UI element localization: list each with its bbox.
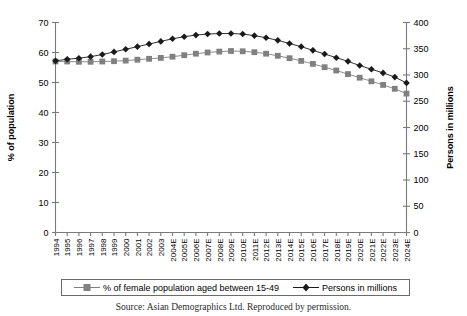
svg-text:1995: 1995 (63, 238, 72, 256)
svg-text:2024E: 2024E (403, 239, 412, 262)
axes-layer: 0102030405060700501001502002503003504001… (6, 18, 455, 262)
chart-legend: % of female population aged between 15-4… (61, 279, 410, 296)
chart-figure: 0102030405060700501001502002503003504001… (0, 0, 467, 316)
svg-text:1998: 1998 (99, 238, 108, 256)
series-persons-millions (52, 30, 410, 86)
svg-text:100: 100 (414, 175, 429, 185)
svg-text:2017E: 2017E (321, 239, 330, 262)
svg-text:50: 50 (38, 78, 48, 88)
svg-text:350: 350 (414, 44, 429, 54)
svg-text:2010E: 2010E (239, 239, 248, 262)
svg-text:1999: 1999 (110, 238, 119, 256)
svg-text:2020E: 2020E (356, 239, 365, 262)
svg-text:10: 10 (38, 198, 48, 208)
svg-text:2011E: 2011E (251, 239, 260, 262)
svg-text:30: 30 (38, 138, 48, 148)
square-marker-icon (74, 282, 100, 293)
svg-text:Persons in millions: Persons in millions (445, 86, 455, 169)
svg-text:2016E: 2016E (309, 239, 318, 262)
series-layer (52, 30, 410, 96)
svg-text:2018E: 2018E (333, 239, 342, 262)
diamond-marker-icon (293, 282, 319, 293)
svg-text:2012E: 2012E (262, 239, 271, 262)
svg-text:40: 40 (38, 108, 48, 118)
svg-text:2003: 2003 (157, 238, 166, 256)
svg-text:400: 400 (414, 18, 429, 28)
svg-text:250: 250 (414, 96, 429, 106)
svg-text:2004E: 2004E (169, 239, 178, 262)
svg-text:50: 50 (414, 201, 424, 211)
svg-text:1997: 1997 (87, 238, 96, 256)
svg-text:2001: 2001 (134, 238, 143, 256)
svg-text:2021E: 2021E (368, 239, 377, 262)
svg-text:2014E: 2014E (286, 239, 295, 262)
legend-entry-percent-female[interactable]: % of female population aged between 15-4… (74, 282, 279, 293)
svg-text:150: 150 (414, 149, 429, 159)
svg-text:2002: 2002 (145, 238, 154, 256)
svg-text:2019E: 2019E (344, 239, 353, 262)
series-percent-female (53, 48, 410, 96)
svg-text:2008E: 2008E (216, 239, 225, 262)
svg-text:0: 0 (414, 228, 419, 238)
legend-label-persons-millions: Persons in millions (322, 283, 397, 293)
svg-text:2015E: 2015E (297, 239, 306, 262)
svg-text:2022E: 2022E (379, 239, 388, 262)
dual-axis-line-chart: 0102030405060700501001502002503003504001… (0, 0, 467, 316)
source-caption: Source: Asian Demographics Ltd. Reproduc… (0, 302, 467, 312)
svg-text:2009E: 2009E (227, 239, 236, 262)
legend-entry-persons-millions[interactable]: Persons in millions (293, 282, 397, 293)
svg-text:70: 70 (38, 18, 48, 28)
svg-text:0: 0 (43, 228, 48, 238)
svg-text:1996: 1996 (75, 238, 84, 256)
svg-text:2005E: 2005E (180, 239, 189, 262)
legend-label-percent-female: % of female population aged between 15-4… (103, 283, 279, 293)
svg-text:1994: 1994 (52, 238, 61, 256)
svg-text:2000: 2000 (122, 238, 131, 256)
svg-text:2023E: 2023E (391, 239, 400, 262)
svg-text:300: 300 (414, 70, 429, 80)
svg-text:200: 200 (414, 123, 429, 133)
svg-text:2013E: 2013E (274, 239, 283, 262)
svg-text:2006E: 2006E (192, 239, 201, 262)
svg-text:2007E: 2007E (204, 239, 213, 262)
svg-text:20: 20 (38, 168, 48, 178)
svg-text:60: 60 (38, 48, 48, 58)
svg-text:% of population: % of population (6, 94, 16, 162)
